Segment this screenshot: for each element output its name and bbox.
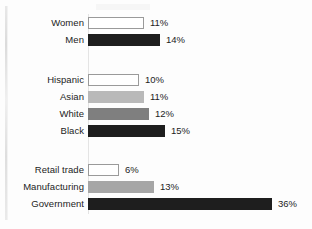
bar-value-label: 11% [150,17,168,29]
bar-category-label: Asian [0,91,84,103]
bar-row: Hispanic 10% [0,74,312,86]
bar-row: White 12% [0,108,312,120]
bar-category-label: White [0,108,84,120]
bar-chart: Women 11% Men 14% Hispanic 10% Asian 11%… [0,0,312,229]
bar-category-label: Hispanic [0,74,84,86]
bar-row: Retail trade 6% [0,164,312,176]
bar-value-label: 13% [160,181,179,193]
bar-value-label: 6% [125,164,139,176]
bar-row: Women 11% [0,17,312,29]
bar-segment [88,125,165,137]
bar-row: Black 15% [0,125,312,137]
bar-segment [88,198,272,210]
bar-category-label: Government [0,198,84,210]
bar-value-label: 14% [166,34,185,46]
bar-segment [88,108,149,120]
bar-row: Men 14% [0,34,312,46]
bar-segment [88,17,144,29]
bar-segment [88,164,119,176]
plot-area: Women 11% Men 14% Hispanic 10% Asian 11%… [0,0,312,229]
bar-category-label: Black [0,125,84,137]
bar-value-label: 12% [155,108,174,120]
bar-segment [88,34,160,46]
bar-segment [88,91,144,103]
bar-category-label: Manufacturing [0,181,84,193]
bar-value-label: 10% [145,74,164,86]
bar-row: Manufacturing 13% [0,181,312,193]
bar-category-label: Retail trade [0,164,84,176]
bar-category-label: Women [0,17,84,29]
bar-row: Government 36% [0,198,312,210]
bar-value-label: 15% [171,125,190,137]
bar-segment [88,74,139,86]
bar-value-label: 36% [278,198,297,210]
bar-segment [88,181,154,193]
bar-value-label: 11% [150,91,168,103]
bar-row: Asian 11% [0,91,312,103]
bar-category-label: Men [0,34,84,46]
